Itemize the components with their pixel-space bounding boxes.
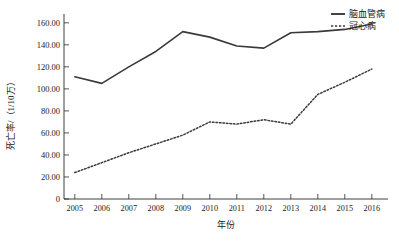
y-tick-label: 160.00 [37, 18, 60, 28]
x-axis-group: 2005200620072008200920102011201220132014… [64, 194, 388, 213]
x-tick-label: 2007 [121, 204, 137, 213]
y-tick-label: 0 [56, 194, 60, 204]
x-tick-label: 2011 [229, 204, 245, 213]
y-tick-marks [64, 23, 69, 199]
x-tick-labels: 2005200620072008200920102011201220132014… [67, 204, 380, 213]
y-tick-label: 100.00 [37, 84, 60, 94]
y-axis-title: 死亡率/（1/10万） [5, 77, 16, 150]
y-tick-label: 20.00 [41, 172, 60, 182]
x-tick-label: 2015 [337, 204, 353, 213]
x-tick-label: 2005 [67, 204, 83, 213]
x-axis-title: 年份 [217, 219, 235, 230]
x-tick-label: 2006 [94, 204, 110, 213]
x-tick-label: 2016 [364, 204, 380, 213]
x-tick-label: 2008 [148, 204, 164, 213]
legend-label: 冠心病 [349, 20, 376, 31]
y-tick-label: 80.00 [41, 106, 60, 116]
x-tick-label: 2012 [256, 204, 272, 213]
y-tick-label: 140.00 [37, 40, 60, 50]
chart-legend: 脑血管病冠心病 [331, 8, 385, 31]
y-axis-group: 020.0040.0060.0080.00100.00120.00140.001… [37, 14, 69, 204]
legend-label: 脑血管病 [349, 8, 385, 19]
data-series-group [75, 24, 372, 173]
y-tick-label: 40.00 [41, 150, 60, 160]
y-tick-label: 120.00 [37, 62, 60, 72]
x-tick-label: 2009 [175, 204, 191, 213]
y-tick-labels: 020.0040.0060.0080.00100.00120.00140.001… [37, 18, 60, 204]
x-tick-label: 2010 [202, 204, 218, 213]
chart-canvas: 020.0040.0060.0080.00100.00120.00140.001… [0, 0, 399, 245]
y-tick-label: 60.00 [41, 128, 60, 138]
x-tick-label: 2014 [310, 204, 326, 213]
x-tick-label: 2013 [283, 204, 299, 213]
line-chart: 020.0040.0060.0080.00100.00120.00140.001… [0, 0, 399, 245]
x-tick-marks [75, 194, 372, 199]
series-line-cerebrovascular [75, 24, 372, 83]
series-line-coronary [75, 69, 372, 173]
